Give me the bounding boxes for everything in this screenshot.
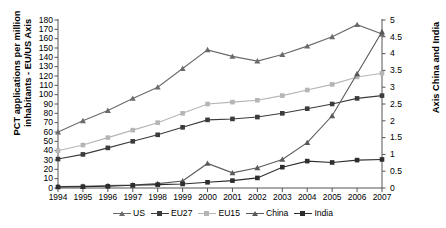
data-point <box>379 29 385 34</box>
data-point <box>280 111 285 116</box>
data-point <box>155 133 160 138</box>
data-point <box>255 115 260 120</box>
data-point <box>130 128 135 133</box>
data-point <box>180 182 185 187</box>
data-point <box>155 120 160 125</box>
data-point <box>380 157 385 162</box>
data-point <box>279 156 285 161</box>
data-point <box>280 165 285 170</box>
data-point <box>355 158 360 163</box>
legend-item-eu27[interactable]: EU27 <box>151 209 193 218</box>
data-point <box>155 182 160 187</box>
data-point <box>130 139 135 144</box>
data-point <box>354 71 360 76</box>
data-point <box>355 96 360 101</box>
data-point <box>56 148 61 153</box>
data-point <box>106 146 111 151</box>
data-point <box>106 135 111 140</box>
data-point <box>56 185 61 190</box>
data-point <box>205 160 211 165</box>
data-point <box>329 34 335 39</box>
data-point <box>330 160 335 165</box>
plot-area <box>0 0 446 228</box>
legend-marker-eu15-icon <box>198 209 216 218</box>
series-india <box>56 157 385 189</box>
data-point <box>106 184 111 189</box>
data-point <box>354 22 360 27</box>
legend-item-china[interactable]: China <box>246 209 288 218</box>
data-point <box>205 102 210 107</box>
data-point <box>380 71 385 76</box>
legend-label: EU27 <box>171 209 193 218</box>
data-point <box>180 125 185 130</box>
data-point <box>81 143 86 148</box>
data-point <box>205 180 210 185</box>
legend-item-us[interactable]: US <box>113 209 145 218</box>
data-point <box>230 117 235 122</box>
legend-label: India <box>314 209 333 218</box>
chart-container: PCT applications per million inhabitants… <box>0 0 446 228</box>
data-point <box>305 159 310 164</box>
data-point <box>329 113 335 118</box>
data-point <box>230 178 235 183</box>
data-point <box>305 88 310 93</box>
legend-item-india[interactable]: India <box>294 209 333 218</box>
legend-marker-china-icon <box>246 209 264 218</box>
legend-item-eu15[interactable]: EU15 <box>198 209 240 218</box>
data-point <box>81 152 86 157</box>
data-point <box>280 93 285 98</box>
legend-label: EU15 <box>218 209 240 218</box>
data-point <box>330 102 335 107</box>
legend-marker-us-icon <box>113 209 131 218</box>
data-point <box>180 111 185 116</box>
legend-label: US <box>133 209 145 218</box>
data-point <box>230 100 235 105</box>
data-point <box>330 82 335 87</box>
data-point <box>130 183 135 188</box>
data-point <box>105 108 111 113</box>
data-point <box>56 157 61 162</box>
data-point <box>130 95 136 100</box>
chart-legend: USEU27EU15ChinaIndia <box>0 209 446 218</box>
data-point <box>205 118 210 123</box>
series-us <box>55 22 385 135</box>
data-point <box>255 176 260 181</box>
legend-label: China <box>266 209 288 218</box>
legend-marker-eu27-icon <box>151 209 169 218</box>
data-point <box>305 106 310 111</box>
data-point <box>255 98 260 103</box>
data-point <box>205 47 211 52</box>
legend-marker-india-icon <box>294 209 312 218</box>
data-point <box>81 184 86 189</box>
data-point <box>380 93 385 98</box>
